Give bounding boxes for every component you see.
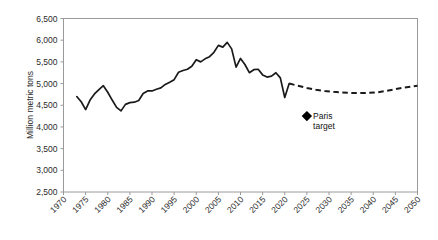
paris-target-label-line1: Paris <box>313 111 332 121</box>
annotations-layer: Paristarget <box>302 111 336 131</box>
x-tick-label: 1980 <box>92 194 113 215</box>
x-tick-label: 1975 <box>70 194 91 215</box>
x-tick-label: 2040 <box>358 194 379 215</box>
x-tick-label: 2035 <box>336 194 357 215</box>
paris-target-marker <box>302 111 312 121</box>
y-tick-label: 3,500 <box>36 144 58 154</box>
chart-canvas: Million metric tons 2,5003,0003,5004,000… <box>0 0 438 240</box>
series-line-historical <box>77 42 289 111</box>
x-tick-label: 2005 <box>203 194 224 215</box>
data-series-layer <box>77 42 418 111</box>
y-axis-title-label: Million metric tons <box>25 71 35 139</box>
y-tick-label: 4,000 <box>36 122 58 132</box>
plot-frame <box>64 19 418 193</box>
x-tick-label: 2000 <box>181 194 202 215</box>
x-tick-label: 2010 <box>225 194 246 215</box>
y-axis-title: Million metric tons <box>25 71 35 139</box>
y-axis-ticks: 2,5003,0003,5004,0004,5005,0005,5006,000… <box>36 14 63 198</box>
y-tick-label: 4,500 <box>36 100 58 110</box>
x-tick-label: 2030 <box>313 194 334 215</box>
y-tick-label: 6,000 <box>36 35 58 45</box>
y-tick-label: 5,500 <box>36 57 58 67</box>
y-tick-label: 5,000 <box>36 79 58 89</box>
x-tick-label: 2025 <box>291 194 312 215</box>
paris-target-label-line2: target <box>313 121 335 131</box>
y-tick-label: 2,500 <box>36 187 58 197</box>
y-tick-label: 6,500 <box>36 14 58 24</box>
x-tick-label: 1985 <box>114 194 135 215</box>
x-tick-label: 2015 <box>247 194 268 215</box>
y-tick-label: 3,000 <box>36 165 58 175</box>
emissions-line-chart: Million metric tons 2,5003,0003,5004,000… <box>0 0 438 240</box>
x-axis-ticks: 1970197519801985199019952000200520102015… <box>48 192 423 215</box>
x-tick-label: 2020 <box>269 194 290 215</box>
x-tick-label: 2050 <box>402 194 423 215</box>
x-tick-label: 1990 <box>136 194 157 215</box>
x-tick-label: 2045 <box>380 194 401 215</box>
series-line-projection <box>289 84 417 94</box>
x-tick-label: 1970 <box>48 194 69 215</box>
x-tick-label: 1995 <box>159 194 180 215</box>
